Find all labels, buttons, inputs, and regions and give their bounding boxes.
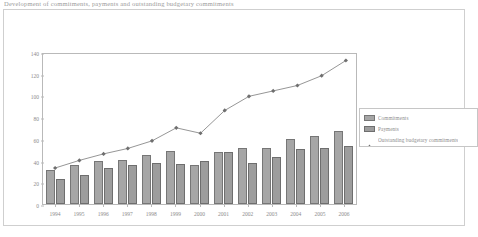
x-tick-mark: [127, 204, 128, 207]
legend-label-payments: Payments: [378, 126, 399, 132]
x-axis-label-2000: 2000: [194, 211, 205, 217]
x-tick-mark: [103, 204, 104, 207]
bar-group-1995: 1995: [67, 54, 91, 204]
x-tick-mark: [175, 204, 176, 207]
y-axis-tick-140: 140: [31, 51, 39, 57]
y-tick-mark: [41, 206, 44, 207]
x-tick-mark: [200, 204, 201, 207]
bar-payments-1995: [80, 175, 89, 204]
bar-payments-1998: [152, 163, 161, 204]
y-axis-tick-60: 60: [34, 138, 40, 144]
figure-caption: Development of commitments, payments and…: [4, 0, 434, 9]
bar-group-2004: 2004: [284, 54, 308, 204]
swatch-payments-icon: [364, 126, 375, 132]
bar-commitments-1998: [142, 155, 151, 204]
plot-area: 020406080100120140 199419951996199719981…: [42, 53, 357, 205]
x-axis-label-1994: 1994: [50, 211, 61, 217]
bar-commitments-2002: [238, 148, 247, 204]
bar-payments-2006: [344, 146, 353, 204]
bar-commitments-1995: [70, 165, 79, 204]
x-tick-mark: [296, 204, 297, 207]
bar-groups: 1994199519961997199819992000200120022003…: [43, 54, 356, 204]
x-tick-mark: [320, 204, 321, 207]
x-tick-mark: [272, 204, 273, 207]
bar-group-2000: 2000: [187, 54, 211, 204]
bar-group-1998: 1998: [139, 54, 163, 204]
bar-payments-1997: [128, 165, 137, 204]
x-axis-label-2005: 2005: [314, 211, 325, 217]
bar-payments-2005: [320, 148, 329, 204]
y-axis-tick-100: 100: [31, 94, 39, 100]
x-axis-label-1996: 1996: [98, 211, 109, 217]
bar-group-1999: 1999: [163, 54, 187, 204]
bar-payments-2000: [200, 161, 209, 204]
legend-item-payments: Payments: [364, 123, 477, 134]
legend-item-commitments: Commitments: [364, 112, 477, 123]
y-axis-tick-20: 20: [34, 181, 40, 187]
y-axis-tick-0: 0: [36, 203, 39, 209]
x-axis-label-2004: 2004: [290, 211, 301, 217]
bar-payments-1994: [56, 179, 65, 204]
x-axis-label-1997: 1997: [122, 211, 133, 217]
bar-commitments-1994: [46, 170, 55, 204]
bar-commitments-2004: [286, 139, 295, 204]
x-tick-mark: [55, 204, 56, 207]
bar-commitments-2006: [334, 131, 343, 204]
bar-commitments-1996: [94, 161, 103, 204]
bar-payments-2003: [272, 157, 281, 204]
bar-group-2002: 2002: [236, 54, 260, 204]
x-axis-label-2003: 2003: [266, 211, 277, 217]
x-axis-label-2001: 2001: [218, 211, 229, 217]
bar-payments-2004: [296, 149, 305, 204]
swatch-commitments-icon: [364, 115, 375, 121]
x-tick-mark: [79, 204, 80, 207]
x-tick-mark: [224, 204, 225, 207]
x-axis-label-1995: 1995: [74, 211, 85, 217]
y-axis-tick-80: 80: [34, 116, 40, 122]
bar-group-2006: 2006: [332, 54, 356, 204]
bar-commitments-1999: [166, 151, 175, 204]
bar-group-2001: 2001: [212, 54, 236, 204]
bar-commitments-2005: [310, 136, 319, 204]
x-tick-mark: [248, 204, 249, 207]
x-tick-mark: [344, 204, 345, 207]
legend-label-outstanding: Outstanding budgetary commitments: [378, 137, 458, 143]
bar-group-1997: 1997: [115, 54, 139, 204]
line-marker-icon: [364, 136, 375, 143]
x-axis-label-1999: 1999: [170, 211, 181, 217]
bar-payments-1999: [176, 164, 185, 204]
legend-label-commitments: Commitments: [378, 115, 409, 121]
bar-commitments-2003: [262, 148, 271, 204]
y-axis-tick-120: 120: [31, 73, 39, 79]
legend-item-outstanding: Outstanding budgetary commitments: [364, 134, 477, 145]
bar-group-2005: 2005: [308, 54, 332, 204]
chart-legend: Commitments Payments Outstanding budgeta…: [359, 108, 478, 147]
bar-group-2003: 2003: [260, 54, 284, 204]
x-axis-label-2002: 2002: [242, 211, 253, 217]
y-axis-tick-40: 40: [34, 160, 40, 166]
bar-commitments-2000: [190, 165, 199, 204]
bar-payments-1996: [104, 168, 113, 204]
x-axis-label-1998: 1998: [146, 211, 157, 217]
bar-group-1994: 1994: [43, 54, 67, 204]
bar-payments-2001: [224, 152, 233, 204]
bar-payments-2002: [248, 163, 257, 204]
bar-commitments-2001: [214, 152, 223, 204]
figure-frame: 020406080100120140 199419951996199719981…: [3, 9, 465, 226]
x-axis-label-2006: 2006: [338, 211, 349, 217]
bar-commitments-1997: [118, 160, 127, 205]
bar-group-1996: 1996: [91, 54, 115, 204]
x-tick-mark: [151, 204, 152, 207]
